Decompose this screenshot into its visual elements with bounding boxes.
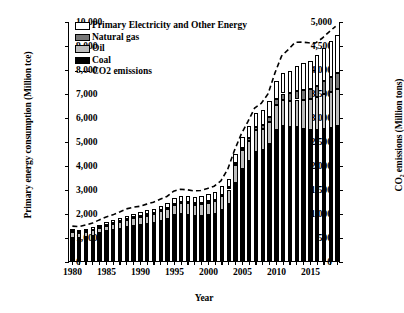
bar-segment-coal (220, 210, 224, 261)
bar-segment-primary-electricity (267, 101, 271, 117)
bar-segment-coal (308, 130, 312, 261)
bar-segment-oil (301, 100, 305, 129)
x-axis-tick (106, 261, 107, 265)
bar-segment-coal (84, 237, 88, 261)
bar-segment-primary-electricity (247, 126, 251, 138)
bar-segment-primary-electricity (172, 198, 176, 203)
bar-segment-coal (97, 233, 101, 261)
bar-segment-oil (274, 105, 278, 130)
bar-segment-coal (315, 130, 319, 261)
legend-swatch-oil-icon (75, 45, 90, 53)
bar-segment-oil (206, 203, 210, 216)
x-axis-tick (249, 261, 250, 265)
x-axis-tick (174, 261, 175, 265)
bar-segment-primary-electricity (138, 212, 142, 216)
bar-segment-primary-electricity (213, 192, 217, 200)
bar-segment-primary-electricity (301, 63, 305, 90)
y-axis-left-tick (65, 22, 69, 23)
x-axis-tick (330, 261, 331, 265)
bar-segment-oil (254, 130, 258, 151)
bar-segment-coal (247, 161, 251, 261)
bar-segment-coal (131, 226, 135, 261)
bar-segment-coal (199, 216, 203, 261)
bar-segment-coal (159, 221, 163, 261)
bar-segment-coal (281, 126, 285, 261)
bar-segment-primary-electricity (308, 61, 312, 89)
x-axis-title: Year (68, 293, 340, 303)
bar-segment-natural-gas (261, 125, 265, 130)
bar-segment-primary-electricity (179, 196, 183, 202)
bar-segment-coal (138, 225, 142, 261)
legend-label: Natural gas (92, 32, 139, 44)
x-axis-tick (269, 261, 270, 265)
x-axis-tick (296, 261, 297, 265)
bar-segment-primary-electricity (186, 196, 190, 202)
bar-segment-natural-gas (267, 117, 271, 122)
y-axis-left-tick (65, 46, 69, 47)
bar-segment-coal (322, 129, 326, 261)
y-axis-left-tick (65, 166, 69, 167)
y-axis-left-tick (65, 262, 69, 263)
bar-segment-natural-gas (301, 90, 305, 100)
bar-segment-natural-gas (288, 93, 292, 101)
y-axis-right-tick (339, 22, 343, 23)
bar-segment-coal (274, 130, 278, 261)
bar-segment-oil (172, 205, 176, 215)
bar-segment-coal (193, 216, 197, 261)
bar-segment-coal (261, 150, 265, 261)
x-axis-tick (215, 261, 216, 265)
bar-segment-primary-electricity (220, 186, 224, 194)
bar-segment-primary-electricity (295, 66, 299, 90)
bar-segment-primary-electricity (111, 220, 115, 223)
y-axis-left-tick-label: 5,000 (311, 17, 332, 27)
bar-segment-oil (335, 89, 339, 126)
bar-segment-coal (152, 223, 156, 261)
y-axis-left-tick (65, 142, 69, 143)
x-axis-tick (72, 261, 73, 265)
y-axis-left-tick (65, 70, 69, 71)
legend-swatch-coal-icon (75, 57, 90, 65)
bar-segment-oil (145, 216, 149, 224)
bar-segment-oil (118, 222, 122, 229)
bar-segment-natural-gas (227, 187, 231, 189)
bar-segment-coal (70, 238, 74, 261)
bar-segment-primary-electricity (97, 225, 101, 227)
bar-segment-coal (240, 169, 244, 261)
bar-segment-oil (315, 97, 319, 130)
bar-segment-coal (165, 219, 169, 261)
y-axis-right-title: CO₂ emissions (Million tons) (394, 20, 404, 250)
x-axis-tick (194, 261, 195, 265)
bar-segment-oil (131, 218, 135, 226)
bar-segment-oil (179, 203, 183, 214)
y-axis-left-tick (65, 190, 69, 191)
bar-segment-coal (227, 204, 231, 261)
bar-segment-oil (295, 100, 299, 127)
bar-segment-oil (186, 203, 190, 215)
x-axis-tick (317, 261, 318, 265)
bar-segment-coal (186, 215, 190, 261)
bar-segment-oil (213, 201, 217, 214)
y-axis-right-tick-label: 2,000 (76, 209, 97, 219)
bar-segment-coal (295, 127, 299, 261)
bar-segment-primary-electricity (70, 229, 74, 231)
bar-segment-primary-electricity (125, 216, 129, 219)
bar-segment-coal (104, 231, 108, 261)
bar-segment-natural-gas (308, 89, 312, 99)
bar-segment-oil (233, 165, 237, 183)
x-axis-tick (255, 261, 256, 265)
bar-segment-coal (267, 144, 271, 261)
bar-segment-oil (199, 204, 203, 216)
bar-segment-oil (70, 232, 74, 238)
x-axis-tick (113, 261, 114, 265)
y-axis-left-title: Primary energy consumption (Million tce) (23, 20, 33, 250)
bar-segment-primary-electricity (91, 227, 95, 229)
x-axis-tick (276, 261, 277, 265)
y-axis-right-tick (339, 262, 343, 263)
y-axis-left-tick (65, 214, 69, 215)
x-axis-tick (85, 261, 86, 265)
x-axis-tick (79, 261, 80, 265)
x-axis-tick (303, 261, 304, 265)
bar-segment-primary-electricity (118, 218, 122, 221)
y-axis-left-tick (65, 238, 69, 239)
x-axis-tick (160, 261, 161, 265)
